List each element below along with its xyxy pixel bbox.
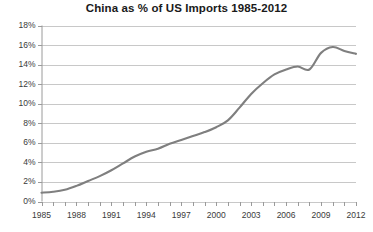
- x-tick-label: 2012: [336, 210, 373, 220]
- y-tick-label: 12%: [4, 79, 36, 89]
- y-tick-label: 8%: [4, 118, 36, 128]
- y-tick-label: 4%: [4, 157, 36, 167]
- y-tick-label: 2%: [4, 176, 36, 186]
- chart-plot-area: [0, 0, 373, 232]
- data-series-line: [42, 47, 357, 193]
- y-tick-label: 14%: [4, 59, 36, 69]
- y-tick-label: 10%: [4, 98, 36, 108]
- y-tick-label: 18%: [4, 20, 36, 30]
- y-tick-label: 16%: [4, 40, 36, 50]
- chart-container: China as % of US Imports 1985-2012 18%16…: [0, 0, 373, 232]
- gridlines-group: [42, 27, 357, 203]
- y-tick-label: 0%: [4, 196, 36, 206]
- x-tick-marks-group: [38, 27, 357, 207]
- y-tick-label: 6%: [4, 137, 36, 147]
